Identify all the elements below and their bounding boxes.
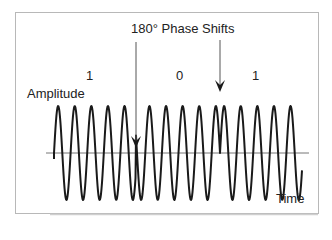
bit-label-1: 1 — [86, 69, 93, 82]
amplitude-label: Amplitude — [27, 87, 85, 100]
bit-label-3: 1 — [252, 69, 259, 82]
diagram-title: 180° Phase Shifts — [131, 22, 235, 35]
time-label: Time — [276, 192, 304, 205]
bit-label-2: 0 — [176, 69, 183, 82]
